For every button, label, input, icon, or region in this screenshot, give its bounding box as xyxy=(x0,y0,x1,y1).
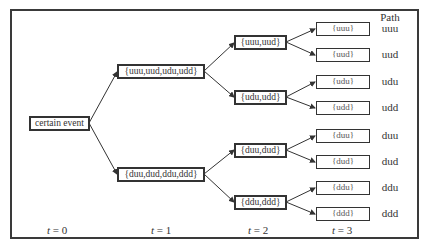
node-t1-d: {duu,dud,ddu,ddd} xyxy=(117,167,205,182)
path-duu: duu xyxy=(370,129,410,141)
path-udu: udu xyxy=(370,75,410,87)
node-t2-dd: {ddu,ddd} xyxy=(234,195,287,210)
node-t3-duu: {duu} xyxy=(316,129,370,143)
node-t2-uu: {uuu,uud} xyxy=(234,35,287,50)
time-label-0: t = 0 xyxy=(47,224,67,236)
node-t2-ud: {udu,udd} xyxy=(234,90,287,105)
node-t3-dud: {dud} xyxy=(316,155,370,169)
time-value: = 1 xyxy=(154,224,171,236)
time-label-2: t = 2 xyxy=(248,224,268,236)
node-certain-event: certain event xyxy=(29,116,90,131)
node-t3-ddu: {ddu} xyxy=(316,181,370,195)
path-udd: udd xyxy=(370,101,410,113)
time-value: = 0 xyxy=(50,224,67,236)
path-uud: uud xyxy=(370,48,410,60)
time-label-3: t = 3 xyxy=(332,224,352,236)
node-t3-udd: {udd} xyxy=(316,101,370,115)
node-t3-uud: {uud} xyxy=(316,48,370,62)
node-t3-udu: {udu} xyxy=(316,75,370,89)
node-t1-u: {uuu,uud,udu,udd} xyxy=(117,64,205,79)
path-ddd: ddd xyxy=(370,207,410,219)
time-label-1: t = 1 xyxy=(151,224,171,236)
node-t3-uuu: {uuu} xyxy=(316,22,370,36)
node-t2-du: {duu,dud} xyxy=(234,143,287,158)
path-dud: dud xyxy=(370,155,410,167)
time-value: = 3 xyxy=(335,224,352,236)
time-value: = 2 xyxy=(251,224,268,236)
path-ddu: ddu xyxy=(370,181,410,193)
node-t3-ddd: {ddd} xyxy=(316,207,370,221)
path-uuu: uuu xyxy=(370,22,410,34)
